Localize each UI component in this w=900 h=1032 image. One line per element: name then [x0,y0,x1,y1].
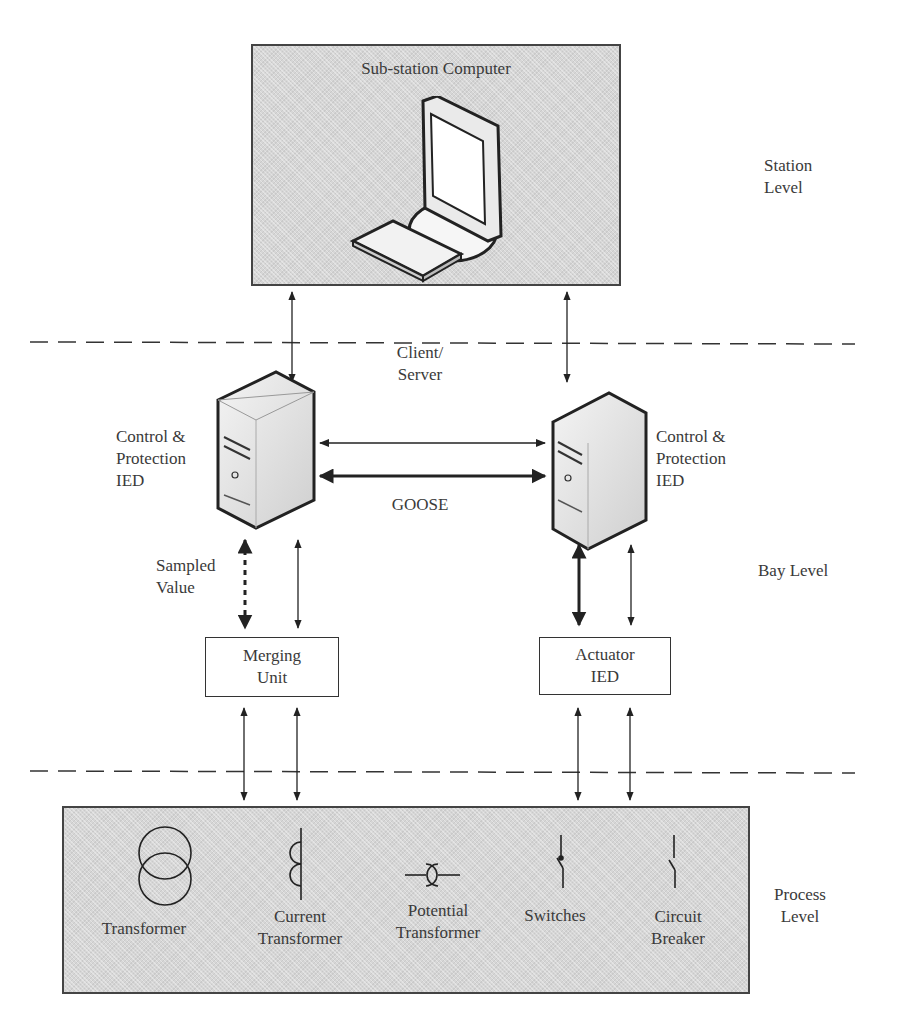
current-transformer-line2: Transformer [240,928,360,950]
client-server-line2: Server [370,364,470,386]
circuit-breaker-line1: Circuit [628,906,728,928]
process-level-label: Process Level [760,884,840,928]
sampled-value-line2: Value [156,577,216,599]
left-ied-line3: IED [116,470,186,492]
sampled-value-line1: Sampled [156,555,216,577]
left-ied-line2: Protection [116,448,186,470]
station-level-label: Station Level [764,155,812,199]
right-ied-line3: IED [656,470,726,492]
current-transformer-label: Current Transformer [240,906,360,950]
merging-unit-box: Merging Unit [205,637,339,697]
client-server-label: Client/ Server [370,342,470,386]
circuit-breaker-line2: Breaker [628,928,728,950]
desktop-computer-icon [333,96,533,286]
transformer-label-line1: Transformer [84,918,204,940]
bay-level-label: Bay Level [758,560,828,582]
station-level-line2: Level [764,177,812,199]
merging-unit-line2: Unit [206,667,338,689]
client-server-line1: Client/ [370,342,470,364]
potential-transformer-label: Potential Transformer [378,900,498,944]
actuator-ied-box: Actuator IED [539,637,671,695]
station-level-line1: Station [764,155,812,177]
potential-transformer-line1: Potential [378,900,498,922]
switches-label: Switches [505,905,605,927]
transformer-label: Transformer [84,918,204,940]
current-transformer-line1: Current [240,906,360,928]
right-ied-label: Control & Protection IED [656,426,726,492]
sampled-value-label: Sampled Value [156,555,216,599]
right-ied-server-icon [553,393,646,549]
goose-label: GOOSE [370,494,470,516]
actuator-ied-line1: Actuator [540,644,670,666]
merging-unit-line1: Merging [206,645,338,667]
left-ied-server-icon [218,372,314,528]
process-level-line1: Process [760,884,840,906]
left-ied-line1: Control & [116,426,186,448]
right-ied-line2: Protection [656,448,726,470]
actuator-ied-line2: IED [540,666,670,688]
substation-computer-box: Sub-station Computer [251,44,621,286]
circuit-breaker-label: Circuit Breaker [628,906,728,950]
process-level-line2: Level [760,906,840,928]
right-ied-line1: Control & [656,426,726,448]
potential-transformer-line2: Transformer [378,922,498,944]
left-ied-label: Control & Protection IED [116,426,186,492]
substation-computer-title: Sub-station Computer [253,58,619,80]
switches-line1: Switches [505,905,605,927]
bay-process-separator [30,771,855,773]
